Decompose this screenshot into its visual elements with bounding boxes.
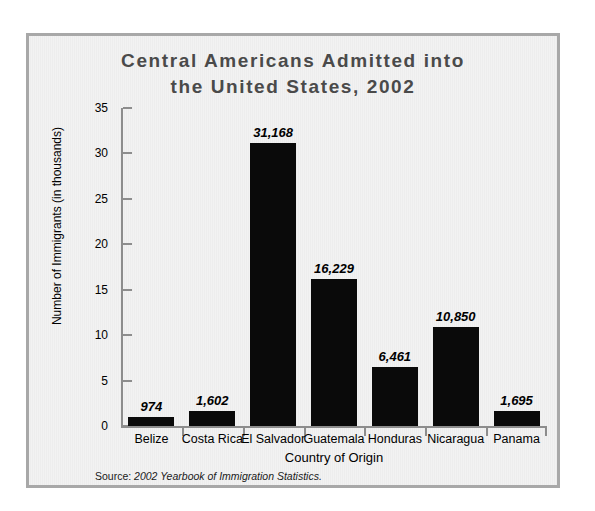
y-axis-tick <box>123 380 132 382</box>
bar: 1,602 <box>189 411 235 426</box>
y-axis-tick-label: 25 <box>95 192 108 206</box>
bar-value-label: 10,850 <box>436 309 476 324</box>
y-axis-tick-label: 0 <box>101 419 108 433</box>
y-axis-title: Number of Immigrants (in thousands) <box>50 116 64 336</box>
plot-area: 05101520253035 9741,60231,16816,2296,461… <box>121 108 547 428</box>
y-axis-tick-label: 35 <box>95 101 108 115</box>
x-axis-category-label: Costa Rica <box>182 432 243 446</box>
x-axis-tick <box>486 428 488 436</box>
source-note: Source: 2002 Yearbook of Immigration Sta… <box>95 470 322 482</box>
chart-title: Central Americans Admitted into the Unit… <box>29 48 557 100</box>
y-axis-tick-label: 15 <box>95 283 108 297</box>
y-axis-tick <box>123 198 132 200</box>
figure-frame: Central Americans Admitted into the Unit… <box>26 33 560 488</box>
bar: 6,461 <box>372 367 418 426</box>
y-axis-tick-label: 10 <box>95 328 108 342</box>
bar: 16,229 <box>311 279 357 426</box>
y-axis-tick <box>123 243 132 245</box>
bar-value-label: 6,461 <box>379 349 412 364</box>
y-axis-tick <box>123 152 132 154</box>
x-axis-tick <box>545 428 547 436</box>
y-axis-tick-label: 30 <box>95 146 108 160</box>
x-axis-title: Country of Origin <box>121 450 547 465</box>
bar-value-label: 1,602 <box>196 393 229 408</box>
y-axis-tick-label: 20 <box>95 237 108 251</box>
y-axis-tick <box>123 334 132 336</box>
chart-title-line-2: the United States, 2002 <box>29 74 557 100</box>
bar: 10,850 <box>433 327 479 426</box>
x-axis-category-label: Belize <box>134 432 168 446</box>
y-axis-tick-label: 5 <box>101 374 108 388</box>
bar-value-label: 31,168 <box>253 125 293 140</box>
x-axis-category-label: Panama <box>493 432 540 446</box>
bar: 31,168 <box>250 143 296 426</box>
source-text: 2002 Yearbook of Immigration Statistics. <box>131 470 322 482</box>
source-label: Source: <box>95 470 131 482</box>
x-axis-tick <box>364 428 366 436</box>
bar: 1,695 <box>494 411 540 426</box>
x-axis-category-label: Honduras <box>368 432 422 446</box>
x-axis-category-label: Nicaragua <box>427 432 484 446</box>
x-axis-category-label: Guatemala <box>303 432 364 446</box>
bar: 974 <box>128 417 174 426</box>
bar-value-label: 1,695 <box>500 393 533 408</box>
bar-value-label: 974 <box>141 399 163 414</box>
figure-panel: Central Americans Admitted into the Unit… <box>29 36 557 485</box>
x-axis-category-label: El Salvador <box>241 432 305 446</box>
y-axis-tick <box>123 107 132 109</box>
chart-title-line-1: Central Americans Admitted into <box>29 48 557 74</box>
x-axis-line <box>121 426 547 428</box>
bar-value-label: 16,229 <box>314 261 354 276</box>
y-axis-tick <box>123 289 132 291</box>
